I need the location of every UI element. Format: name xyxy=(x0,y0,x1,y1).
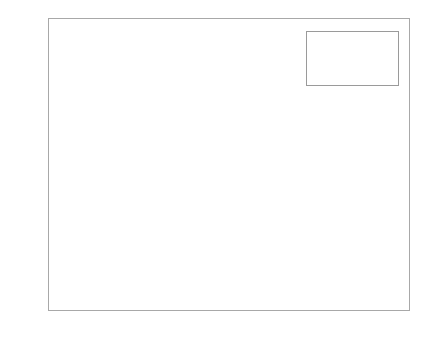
figure xyxy=(0,0,423,352)
legend xyxy=(306,31,399,86)
